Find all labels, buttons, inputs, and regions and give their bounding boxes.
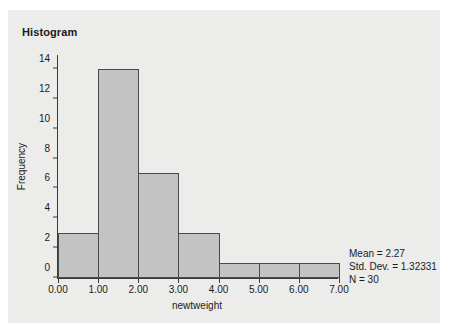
stat-mean: Mean = 2.27 bbox=[349, 248, 437, 261]
x-axis-tick bbox=[299, 278, 300, 283]
y-axis-tick-label: 4 bbox=[44, 203, 50, 213]
histogram-bar bbox=[219, 263, 260, 278]
stat-std-dev: Std. Dev. = 1.32331 bbox=[349, 261, 437, 274]
y-axis-tick-label: 0 bbox=[44, 263, 50, 273]
histogram-bar bbox=[178, 233, 219, 278]
plot-area: 024681012140.001.002.003.004.005.006.007… bbox=[57, 55, 338, 279]
x-axis-tick-label: 6.00 bbox=[289, 285, 308, 295]
chart-panel: Histogram Frequency 024681012140.001.002… bbox=[8, 10, 440, 323]
x-axis-tick-label: 5.00 bbox=[249, 285, 268, 295]
x-axis-tick-label: 1.00 bbox=[88, 285, 107, 295]
histogram-screenshot: Histogram Frequency 024681012140.001.002… bbox=[0, 0, 450, 331]
histogram-bar bbox=[299, 263, 340, 278]
y-axis-tick-label: 8 bbox=[44, 144, 50, 154]
x-axis-tick bbox=[259, 278, 260, 283]
x-axis-tick-label: 7.00 bbox=[329, 285, 348, 295]
y-axis-tick bbox=[53, 217, 58, 218]
y-axis-title-text: Frequency bbox=[17, 143, 28, 190]
histogram-bar bbox=[58, 233, 99, 278]
y-axis-tick bbox=[53, 97, 58, 98]
x-axis-tick bbox=[58, 278, 59, 283]
chart-title: Histogram bbox=[22, 26, 77, 38]
y-axis-title: Frequency bbox=[15, 55, 29, 278]
y-axis-tick-label: 10 bbox=[39, 114, 50, 124]
y-axis-tick bbox=[53, 127, 58, 128]
y-axis-tick bbox=[53, 187, 58, 188]
histogram-bar bbox=[98, 69, 139, 278]
x-axis-tick-label: 3.00 bbox=[169, 285, 188, 295]
x-axis-tick-label: 4.00 bbox=[209, 285, 228, 295]
x-axis-tick bbox=[178, 278, 179, 283]
y-axis-tick-label: 6 bbox=[44, 173, 50, 183]
y-axis-tick-label: 14 bbox=[39, 54, 50, 64]
x-axis-tick bbox=[219, 278, 220, 283]
x-axis-tick bbox=[339, 278, 340, 283]
y-axis-tick bbox=[53, 67, 58, 68]
statistics-annotation: Mean = 2.27 Std. Dev. = 1.32331 N = 30 bbox=[349, 248, 437, 286]
y-axis-tick-label: 2 bbox=[44, 233, 50, 243]
y-axis-tick bbox=[53, 157, 58, 158]
x-axis-title: newtweight bbox=[57, 300, 337, 311]
stat-n: N = 30 bbox=[349, 274, 437, 287]
x-axis-tick bbox=[138, 278, 139, 283]
x-axis-tick bbox=[98, 278, 99, 283]
x-axis-tick-label: 0.00 bbox=[48, 285, 67, 295]
histogram-bar bbox=[138, 173, 179, 278]
histogram-bar bbox=[259, 263, 300, 278]
y-axis-tick-label: 12 bbox=[39, 84, 50, 94]
x-axis-tick-label: 2.00 bbox=[129, 285, 148, 295]
